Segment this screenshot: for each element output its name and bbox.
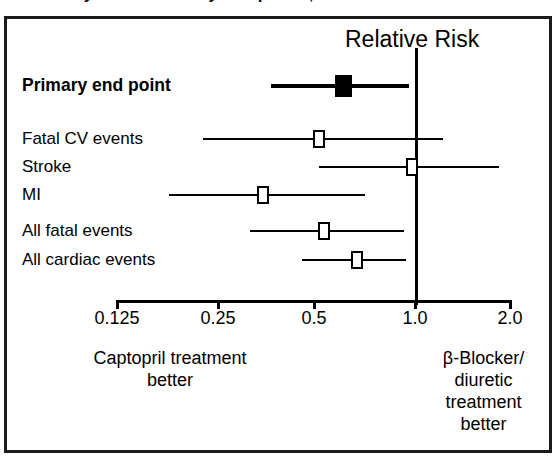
estimate-marker-all-cardiac-events	[351, 251, 363, 269]
caption-blocker-diuretic-better: β-Blocker/ diuretic treatment better	[421, 348, 546, 436]
estimate-marker-primary-end-point	[335, 75, 352, 97]
row-label-primary-end-point: Primary end point	[22, 77, 171, 95]
x-tick-label-0-125: 0.125	[94, 308, 139, 329]
axis-title-relative-risk: Relative Risk	[345, 26, 479, 53]
row-label-fatal-cv-events: Fatal CV events	[22, 130, 143, 147]
x-tick-label-2: 2.0	[497, 308, 522, 329]
x-tick-label-1: 1.0	[402, 308, 427, 329]
x-tick-label-0-25: 0.25	[200, 308, 235, 329]
x-tick-label-0-5: 0.5	[301, 308, 326, 329]
forest-plot-figure: Primary and secondary end points, CAPPP …	[0, 0, 556, 464]
row-label-stroke: Stroke	[22, 158, 71, 175]
estimate-marker-stroke	[406, 158, 418, 176]
estimate-marker-all-fatal-events	[318, 222, 330, 240]
row-label-mi: MI	[22, 186, 41, 203]
plot-area: Relative Risk Primary end pointFatal CV …	[0, 0, 556, 464]
estimate-marker-mi	[257, 186, 269, 204]
row-label-all-fatal-events: All fatal events	[22, 222, 133, 239]
caption-captopril-better: Captopril treatment better	[60, 348, 280, 392]
row-label-all-cardiac-events: All cardiac events	[22, 251, 155, 268]
estimate-marker-fatal-cv-events	[313, 130, 325, 148]
reference-line-rr-1	[415, 48, 418, 305]
